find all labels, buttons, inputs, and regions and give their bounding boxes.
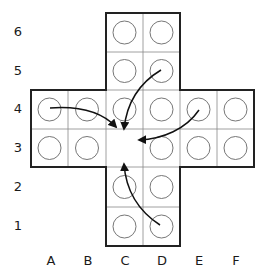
peg-d4[interactable] xyxy=(150,98,173,121)
peg-d1[interactable] xyxy=(150,215,173,238)
peg-f3[interactable] xyxy=(224,137,247,160)
peg-a4[interactable] xyxy=(38,98,61,121)
pegs xyxy=(38,21,247,238)
peg-c5[interactable] xyxy=(113,60,136,83)
peg-d2[interactable] xyxy=(150,176,173,199)
move-arrows xyxy=(50,70,199,225)
peg-d6[interactable] xyxy=(150,21,173,44)
peg-a3[interactable] xyxy=(38,137,61,160)
peg-c1[interactable] xyxy=(113,215,136,238)
peg-d3[interactable] xyxy=(150,137,173,160)
peg-c6[interactable] xyxy=(113,21,136,44)
board-diagram xyxy=(0,0,266,280)
peg-d5[interactable] xyxy=(150,60,173,83)
peg-c4[interactable] xyxy=(113,98,136,121)
peg-e4[interactable] xyxy=(187,98,210,121)
peg-f4[interactable] xyxy=(224,98,247,121)
arrow-e4-to-c3 xyxy=(139,110,199,140)
peg-b3[interactable] xyxy=(76,137,99,160)
peg-e3[interactable] xyxy=(187,137,210,160)
